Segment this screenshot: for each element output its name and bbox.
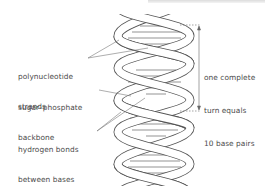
label-line: one complete: [204, 72, 255, 83]
label-line: polynucleotide: [18, 72, 73, 82]
label-hydrogen-bonds: hydrogen bonds between bases: [18, 125, 79, 194]
label-line: hydrogen bonds: [18, 145, 79, 155]
label-line: sugar–phosphate: [18, 103, 82, 113]
label-line: turn equals: [204, 105, 255, 116]
label-line: between bases: [18, 175, 79, 185]
helix: [118, 0, 190, 194]
label-turn-length: one complete turn equals 10 base pairs: [204, 50, 255, 160]
strand-b: [118, 6, 190, 194]
label-line: 10 base pairs: [204, 138, 255, 149]
